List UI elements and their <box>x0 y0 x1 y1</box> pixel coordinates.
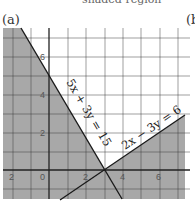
x-tick-neg2: 2 <box>9 172 14 182</box>
x-tick-0: 0 <box>40 172 45 182</box>
x-tick-4: 4 <box>120 172 125 182</box>
x-tick-2: 2 <box>83 172 88 182</box>
y-tick-6: 6 <box>40 52 45 62</box>
y-tick-4: 4 <box>40 90 45 100</box>
inequality-graph: 2 0 2 4 6 6 4 2 5x + 3y = 15 2x − 3y = 6 <box>0 0 195 209</box>
y-tick-2: 2 <box>40 128 45 138</box>
x-tick-6: 6 <box>156 172 161 182</box>
figure: shaded region (a) (b <box>0 0 195 209</box>
